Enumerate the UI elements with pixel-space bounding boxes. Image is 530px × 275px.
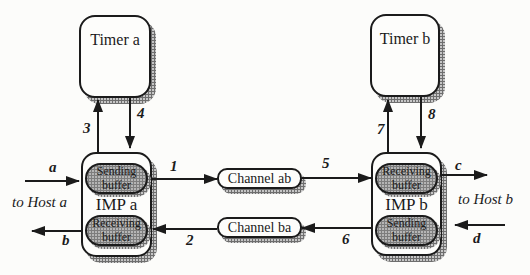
timer-a-label: Timer a — [90, 31, 140, 49]
channel-ba-node: Channel ba — [217, 217, 302, 238]
arrow-imp-a-to-timer-a — [93, 100, 103, 152]
arrow-timer-a-to-imp-a — [125, 98, 135, 148]
diagram-stage: Timer a Timer b Sending buffer IMP a Rec… — [0, 0, 530, 275]
edge-label-b: b — [62, 232, 70, 248]
arrow-head-down-icon — [416, 136, 426, 149]
edge-label-a: a — [49, 159, 57, 175]
arrow-head-right-icon — [66, 176, 80, 186]
arrow-imp-b-to-host-b — [442, 170, 487, 180]
edge-label-3: 3 — [83, 120, 91, 136]
arrow-head-left-icon — [301, 223, 315, 233]
arrow-channel-ab-to-imp-b — [302, 173, 371, 183]
arrow-head-left-icon — [454, 220, 468, 230]
arrow-head-right-icon — [204, 174, 218, 184]
arrow-head-left-icon — [152, 224, 166, 234]
arrow-imp-a-to-host-a — [32, 226, 81, 236]
arrow-head-left-icon — [31, 226, 45, 236]
imp-b-node: Receiving buffer IMP b Sending buffer — [371, 152, 442, 256]
imp-a-receiving-buffer-label: Receiving buffer — [91, 217, 143, 243]
edge-label-d: d — [473, 230, 481, 246]
channel-ab-node: Channel ab — [217, 168, 302, 189]
edge-label-1: 1 — [170, 158, 178, 174]
arrow-imp-a-to-channel-ab — [152, 174, 217, 184]
imp-a-node: Sending buffer IMP a Receiving buffer — [81, 152, 152, 257]
edge-label-6: 6 — [342, 231, 350, 247]
edge-label-c: c — [455, 157, 462, 173]
arrow-imp-b-to-channel-ba — [302, 223, 371, 233]
imp-b-sending-buffer: Sending buffer — [375, 215, 438, 246]
imp-a-receiving-buffer: Receiving buffer — [85, 215, 148, 246]
arrow-host-d-to-imp-b — [455, 220, 505, 230]
edge-label-4: 4 — [137, 105, 145, 121]
arrow-head-right-icon — [358, 173, 372, 183]
to-host-a-label: to Host a — [12, 194, 67, 210]
arrow-head-up-icon — [93, 99, 103, 112]
imp-b-title: IMP b — [373, 194, 440, 215]
imp-b-receiving-buffer-label: Receiving buffer — [381, 165, 433, 191]
imp-b-receiving-buffer: Receiving buffer — [375, 163, 438, 194]
imp-b-sending-buffer-label: Sending buffer — [381, 217, 433, 243]
imp-a-sending-buffer-label: Sending buffer — [91, 165, 143, 191]
edge-label-5: 5 — [322, 155, 330, 171]
arrow-head-right-icon — [474, 170, 488, 180]
channel-ba-label: Channel ba — [228, 219, 291, 236]
edge-label-2: 2 — [186, 232, 194, 248]
timer-a-node: Timer a — [79, 15, 151, 98]
channel-ab-label: Channel ab — [228, 170, 291, 187]
arrow-channel-ba-to-imp-a — [153, 224, 217, 234]
to-host-b-label: to Host b — [458, 191, 513, 207]
edge-label-8: 8 — [428, 106, 436, 122]
timer-b-label: Timer b — [380, 30, 431, 48]
arrow-head-down-icon — [125, 136, 135, 149]
imp-a-title: IMP a — [83, 194, 150, 215]
arrow-host-a-to-imp-a — [25, 176, 79, 186]
timer-b-node: Timer b — [370, 14, 440, 97]
arrow-timer-b-to-imp-b — [416, 96, 426, 148]
arrow-head-up-icon — [383, 99, 393, 112]
imp-a-sending-buffer: Sending buffer — [85, 163, 148, 194]
edge-label-7: 7 — [377, 121, 385, 137]
